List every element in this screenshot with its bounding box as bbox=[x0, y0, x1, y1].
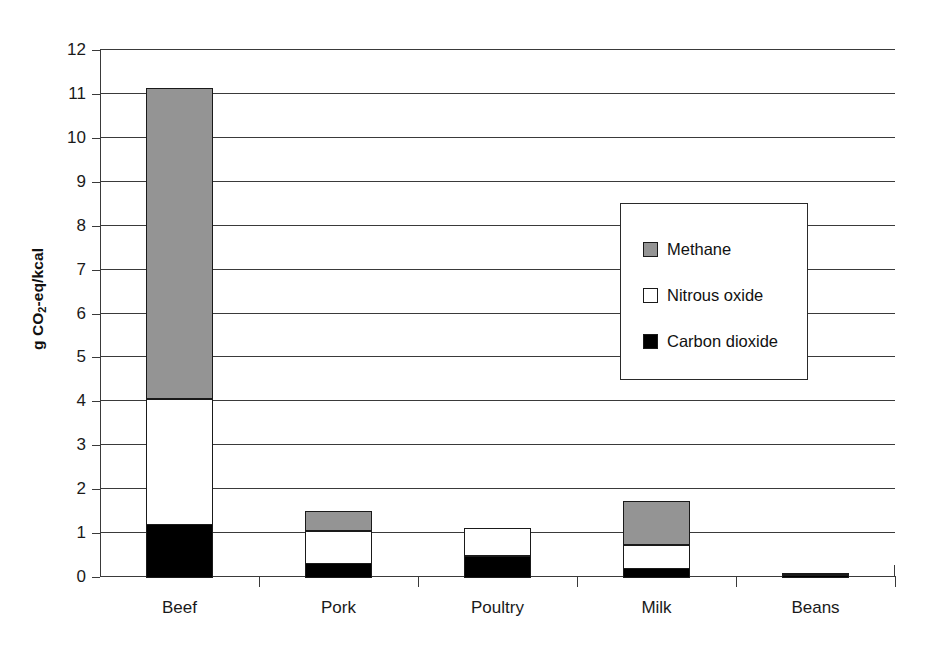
bar-segment-nitrous-oxide[interactable] bbox=[464, 528, 531, 557]
y-tick-label: 11 bbox=[46, 84, 86, 104]
y-tick-label: 4 bbox=[46, 391, 86, 411]
bar-segment-nitrous-oxide[interactable] bbox=[623, 545, 690, 570]
bar-segment-methane[interactable] bbox=[146, 88, 213, 398]
x-tick-mark bbox=[895, 576, 896, 587]
bar-group[interactable] bbox=[146, 49, 213, 576]
y-tick-label: 8 bbox=[46, 216, 86, 236]
stacked-bar[interactable] bbox=[146, 85, 213, 576]
stacked-bar[interactable] bbox=[464, 526, 531, 576]
stacked-bar[interactable] bbox=[305, 508, 372, 576]
legend-label: Carbon dioxide bbox=[667, 332, 778, 351]
y-tick-label: 0 bbox=[46, 567, 86, 587]
methane-swatch bbox=[643, 242, 658, 257]
legend-item[interactable]: Nitrous oxide bbox=[643, 272, 807, 318]
bar-segment-carbon-dioxide[interactable] bbox=[305, 563, 372, 577]
y-tick-label: 12 bbox=[46, 40, 86, 60]
y-tick-mark bbox=[92, 357, 100, 358]
x-tick-label-milk: Milk bbox=[577, 598, 737, 618]
bar-segment-nitrous-oxide[interactable] bbox=[146, 399, 213, 525]
bar-segment-carbon-dioxide[interactable] bbox=[623, 568, 690, 578]
y-tick-label: 3 bbox=[46, 435, 86, 455]
y-tick-mark bbox=[92, 533, 100, 534]
x-tick-mark bbox=[736, 576, 737, 587]
legend-item[interactable]: Carbon dioxide bbox=[643, 318, 807, 364]
bar-segment-carbon-dioxide[interactable] bbox=[146, 524, 213, 578]
y-tick-mark bbox=[92, 314, 100, 315]
y-tick-label: 6 bbox=[46, 304, 86, 324]
y-tick-mark bbox=[92, 50, 100, 51]
y-tick-label: 5 bbox=[46, 347, 86, 367]
bar-group[interactable] bbox=[305, 49, 372, 576]
x-tick-label-beef: Beef bbox=[100, 598, 260, 618]
y-tick-mark bbox=[92, 270, 100, 271]
x-tick-label-poultry: Poultry bbox=[418, 598, 578, 618]
bar-segment-methane[interactable] bbox=[623, 501, 690, 545]
x-tick-label-beans: Beans bbox=[736, 598, 896, 618]
y-tick-label: 1 bbox=[46, 523, 86, 543]
x-tick-mark bbox=[577, 576, 578, 587]
y-tick-label: 2 bbox=[46, 479, 86, 499]
bar-segment-carbon-dioxide[interactable] bbox=[464, 556, 531, 577]
legend-label: Nitrous oxide bbox=[667, 286, 763, 305]
bar-group[interactable] bbox=[464, 49, 531, 576]
bar-segment-methane[interactable] bbox=[305, 511, 372, 531]
y-tick-mark bbox=[92, 138, 100, 139]
x-tick-label-pork: Pork bbox=[259, 598, 419, 618]
y-tick-mark bbox=[92, 182, 100, 183]
y-axis-title: g CO2-eq/kcal bbox=[29, 199, 47, 399]
y-tick-mark bbox=[92, 577, 100, 578]
x-tick-mark bbox=[259, 576, 260, 587]
y-tick-mark bbox=[92, 401, 100, 402]
y-axis-title-suffix: -eq/kcal bbox=[29, 248, 46, 307]
stacked-bar[interactable] bbox=[782, 573, 849, 576]
bar-segment-carbon-dioxide[interactable] bbox=[782, 575, 849, 577]
y-axis-title-prefix: g CO bbox=[29, 313, 46, 350]
x-axis-right-cap bbox=[894, 565, 895, 576]
x-tick-mark bbox=[418, 576, 419, 587]
stacked-bar[interactable] bbox=[623, 498, 690, 576]
bar-segment-nitrous-oxide[interactable] bbox=[305, 531, 372, 565]
legend-label: Methane bbox=[667, 240, 731, 259]
y-tick-mark bbox=[92, 226, 100, 227]
y-tick-label: 9 bbox=[46, 172, 86, 192]
y-tick-mark bbox=[92, 94, 100, 95]
stacked-bar-chart: g CO2-eq/kcal 0123456789101112 BeefPorkP… bbox=[0, 0, 926, 653]
legend-item[interactable]: Methane bbox=[643, 226, 807, 272]
y-tick-mark bbox=[92, 489, 100, 490]
carbon-dioxide-swatch bbox=[643, 334, 658, 349]
nitrous-oxide-swatch bbox=[643, 288, 658, 303]
legend: MethaneNitrous oxideCarbon dioxide bbox=[620, 203, 808, 380]
y-tick-label: 10 bbox=[46, 128, 86, 148]
y-tick-label: 7 bbox=[46, 260, 86, 280]
y-tick-mark bbox=[92, 445, 100, 446]
